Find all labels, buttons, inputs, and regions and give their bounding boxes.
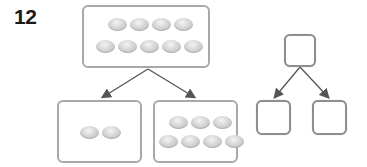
- bean-icon: [191, 116, 210, 129]
- bean-icon: [169, 116, 188, 129]
- part-box-left: [57, 100, 142, 163]
- bean-row: [96, 40, 203, 53]
- bean-icon: [118, 40, 137, 53]
- bean-icon: [225, 135, 244, 148]
- bean-icon: [162, 40, 181, 53]
- bean-icon: [130, 18, 149, 31]
- bean-icon: [96, 40, 115, 53]
- answer-part-square-left[interactable]: [256, 100, 291, 135]
- bean-icon: [181, 135, 200, 148]
- bean-icon: [213, 116, 232, 129]
- bean-icon: [203, 135, 222, 148]
- bean-icon: [152, 18, 171, 31]
- bean-icon: [140, 40, 159, 53]
- whole-box: [82, 5, 210, 68]
- bean-icon: [159, 135, 178, 148]
- answer-whole-square[interactable]: [284, 34, 316, 67]
- bean-icon: [174, 18, 193, 31]
- bean-row: [108, 18, 193, 31]
- bean-row: [169, 116, 232, 129]
- bean-icon: [184, 40, 203, 53]
- bean-icon: [102, 126, 121, 139]
- answer-part-square-right[interactable]: [312, 100, 347, 135]
- bean-row: [159, 135, 244, 148]
- bean-icon: [80, 126, 99, 139]
- part-box-right: [153, 100, 238, 163]
- bean-icon: [108, 18, 127, 31]
- bean-row: [80, 126, 121, 139]
